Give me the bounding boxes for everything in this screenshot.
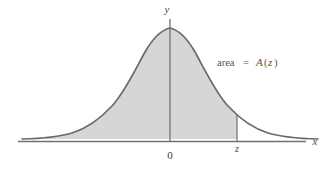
shaded-area-under-curve (22, 28, 237, 139)
z-tick-label: z (234, 143, 239, 154)
area-annotation-word: area (217, 57, 235, 68)
area-annotation-close-paren: ) (274, 57, 278, 69)
x-axis-label: x (312, 135, 318, 147)
area-annotation-argument: z (267, 56, 273, 68)
area-annotation-equals: = (243, 57, 249, 68)
normal-distribution-figure: y x 0 z area = A ( z ) (0, 0, 334, 171)
area-annotation: area = A ( z ) (217, 56, 278, 69)
origin-tick-label: 0 (167, 149, 173, 161)
normal-curve-svg: y x 0 z area = A ( z ) (0, 0, 334, 171)
y-axis-label: y (164, 3, 170, 15)
area-annotation-function: A (255, 56, 263, 68)
